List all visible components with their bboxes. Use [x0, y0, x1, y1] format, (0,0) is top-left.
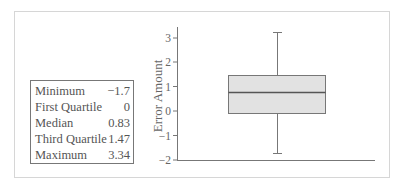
- y-axis-tick-labels: 3 2 1 0 −1 −2: [159, 32, 172, 166]
- tick-label: 1: [165, 81, 171, 93]
- tick-label: 2: [165, 56, 171, 68]
- box-plot: 3 2 1 0 −1 −2: [0, 0, 402, 189]
- tick-label: −2: [159, 154, 171, 166]
- y-axis-ticks: [173, 38, 177, 160]
- tick-label: 0: [165, 105, 171, 117]
- tick-label: −1: [159, 130, 171, 142]
- tick-label: 3: [165, 32, 171, 44]
- iqr-box: [229, 76, 326, 114]
